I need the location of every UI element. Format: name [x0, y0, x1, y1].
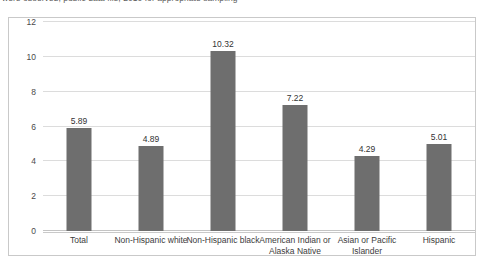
clipped-caption-text: were observed; public data file; 2010 fo…	[2, 0, 238, 3]
bar-value-label: 4.89	[143, 134, 160, 144]
chart-frame: 0246810125.894.8910.327.224.295.01 Total…	[8, 17, 476, 256]
gridline-0	[43, 230, 475, 231]
category-label: Non-Hispanic black	[184, 235, 262, 246]
clipped-caption-strip: were observed; public data file; 2010 fo…	[0, 0, 482, 7]
bar: 4.89	[139, 146, 164, 231]
bar-value-label: 10.32	[212, 39, 233, 49]
bar-value-label: 5.89	[71, 116, 88, 126]
category-axis-labels: TotalNon-Hispanic whiteNon-Hispanic blac…	[43, 232, 475, 256]
bar: 7.22	[283, 105, 308, 231]
gridline-2	[43, 195, 475, 196]
y-axis-tick-label: 10	[27, 52, 36, 62]
y-axis-tick-label: 0	[31, 226, 36, 236]
gridline-4	[43, 160, 475, 161]
category-band-top-rule	[43, 232, 475, 233]
gridline-10	[43, 56, 475, 57]
plot-area: 0246810125.894.8910.327.224.295.01	[43, 22, 475, 231]
gridline-8	[43, 91, 475, 92]
category-label: Asian or Pacific Islander	[328, 235, 406, 256]
category-label: Total	[40, 235, 118, 246]
y-axis-tick-label: 2	[31, 191, 36, 201]
gridline-12	[43, 21, 475, 22]
bar-value-label: 5.01	[431, 132, 448, 142]
category-label: Non-Hispanic white	[112, 235, 190, 246]
y-axis-tick-label: 4	[31, 156, 36, 166]
gridline-6	[43, 126, 475, 127]
category-label: Hispanic	[400, 235, 478, 246]
bar-value-label: 4.29	[359, 144, 376, 154]
y-axis-tick-label: 12	[27, 17, 36, 27]
bar: 4.29	[355, 156, 380, 231]
bar: 10.32	[211, 51, 236, 231]
bar: 5.89	[67, 128, 92, 231]
bar-value-label: 7.22	[287, 93, 304, 103]
bar: 5.01	[427, 144, 452, 231]
category-label: American Indian or Alaska Native	[256, 235, 334, 256]
y-axis-tick-label: 6	[31, 122, 36, 132]
y-axis-tick-label: 8	[31, 87, 36, 97]
